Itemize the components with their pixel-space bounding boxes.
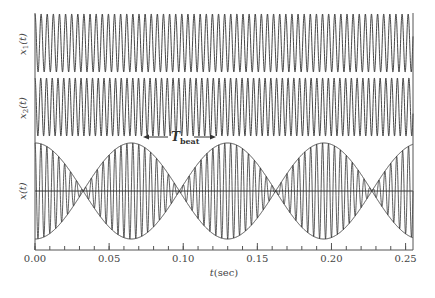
signal-trace (35, 14, 413, 72)
x-tick-label: 0.20 (320, 253, 342, 264)
x-tick-label: 0.15 (246, 253, 268, 264)
signal-trace (35, 78, 413, 136)
x-tick-label: 0.10 (172, 253, 194, 264)
svg-text:Tbeat: Tbeat (171, 130, 200, 146)
y-label-x1: x1(t) (17, 33, 30, 55)
x-tick-label: 0.05 (98, 253, 120, 264)
beat-frequency-chart: 0.000.050.100.150.200.25 x1(t) x2(t) x(t… (0, 0, 435, 298)
x-axis-label: t(sec) (210, 267, 239, 278)
y-label-x2: x2(t) (17, 97, 30, 119)
x-tick-label: 0.00 (24, 253, 46, 264)
x2-panel (35, 78, 413, 136)
x-tick-label: 0.25 (394, 253, 416, 264)
x1-panel (35, 14, 413, 72)
x-sum-panel (35, 143, 413, 239)
y-label-x: x(t) (17, 182, 28, 200)
